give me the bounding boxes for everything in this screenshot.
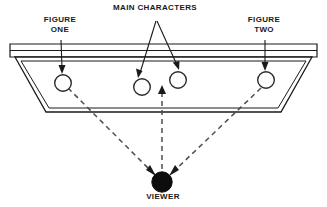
figure-two-marker bbox=[258, 72, 275, 89]
label-figure-two: FIGURE TWO bbox=[228, 15, 300, 34]
stage-viewing-angle-diagram: MAIN CHARACTERS FIGURE ONE FIGURE TWO VI… bbox=[0, 0, 327, 207]
label-viewer: VIEWER bbox=[126, 192, 200, 202]
figure-one-marker bbox=[55, 75, 72, 92]
label-main-characters: MAIN CHARACTERS bbox=[97, 3, 213, 13]
label-figure-one: FIGURE ONE bbox=[29, 15, 91, 34]
back-wall-bar bbox=[10, 44, 317, 57]
main-character-left-marker bbox=[134, 79, 151, 96]
main-character-right-marker bbox=[170, 72, 187, 89]
viewer-point-marker bbox=[152, 172, 172, 192]
sightline-right-arrowhead bbox=[169, 165, 179, 176]
